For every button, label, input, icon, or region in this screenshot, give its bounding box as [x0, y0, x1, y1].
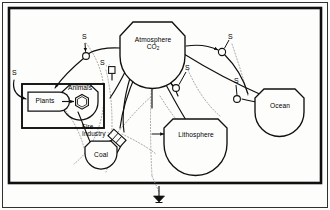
lithosphere-node-shape — [164, 119, 227, 176]
animals-label: Animals — [62, 85, 98, 92]
atmosphere-label-line2: CO2 — [122, 44, 184, 52]
carbon-cycle-diagram: Atmosphere CO2 Plants Animals Coal Litho… — [0, 0, 330, 210]
atmosphere-label-subscript: 2 — [157, 46, 160, 51]
ocean-node-shape — [255, 89, 304, 137]
atmosphere-node-shape — [120, 22, 185, 88]
source-circle-upper-right — [218, 48, 225, 55]
lithosphere-label: Lithosphere — [166, 132, 226, 139]
source-label-sunlight: S — [12, 69, 17, 76]
fire-industry-label: Fire Industry — [82, 123, 106, 138]
source-label-plant-flow: S — [82, 33, 87, 40]
source-stem-plant-flow — [85, 43, 86, 52]
source-label-mid-left: S — [100, 59, 105, 66]
fire-industry-label-line2: Industry — [82, 130, 106, 137]
atmosphere-label: Atmosphere CO2 — [122, 37, 184, 52]
source-label-upper-right: S — [228, 33, 233, 40]
ocean-label: Ocean — [264, 103, 296, 110]
source-label-ocean: S — [234, 77, 239, 84]
fire-industry-label-line1: Fire — [82, 123, 106, 130]
source-circle-mid-right — [173, 85, 180, 92]
source-circle-ocean — [234, 96, 241, 103]
source-label-mid-right: S — [185, 64, 190, 71]
coal-label: Coal — [88, 152, 114, 159]
source-box-mid-left — [109, 67, 115, 74]
source-circle-plant-flow — [83, 53, 90, 60]
plants-label: Plants — [30, 98, 60, 105]
